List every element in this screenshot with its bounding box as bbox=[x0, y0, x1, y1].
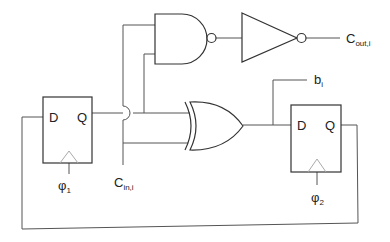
xor-gate-body-icon bbox=[190, 102, 243, 150]
wire-q1-to-nand bbox=[144, 54, 155, 113]
nand-bubble-icon bbox=[207, 34, 216, 43]
phi1-label: φ1 bbox=[58, 178, 71, 195]
ff1-q-label: Q bbox=[77, 110, 87, 125]
nand-gate bbox=[155, 14, 216, 64]
inverter-bubble-icon bbox=[297, 34, 306, 43]
cout-label: Cout,i bbox=[346, 31, 371, 48]
cin-label: Cin,i bbox=[114, 175, 134, 192]
wire-cin bbox=[123, 25, 155, 165]
ff2-d-label: D bbox=[297, 118, 306, 133]
phi2-label: φ2 bbox=[311, 190, 324, 207]
inverter-gate bbox=[242, 13, 306, 62]
b-label: bi bbox=[314, 72, 323, 89]
flip-flop-1: D Q bbox=[43, 97, 92, 163]
ff2-q-label: Q bbox=[325, 118, 335, 133]
ff2-body bbox=[291, 105, 341, 172]
ff1-d-label: D bbox=[49, 110, 58, 125]
inverter-body-icon bbox=[242, 13, 297, 62]
nand-gate-body-icon bbox=[155, 14, 207, 64]
flip-flop-2: D Q bbox=[291, 105, 341, 172]
circuit-diagram: D Q D Q φ1 φ2 Cin,i Cout,i bi bbox=[0, 0, 390, 242]
xor-gate bbox=[185, 102, 243, 150]
